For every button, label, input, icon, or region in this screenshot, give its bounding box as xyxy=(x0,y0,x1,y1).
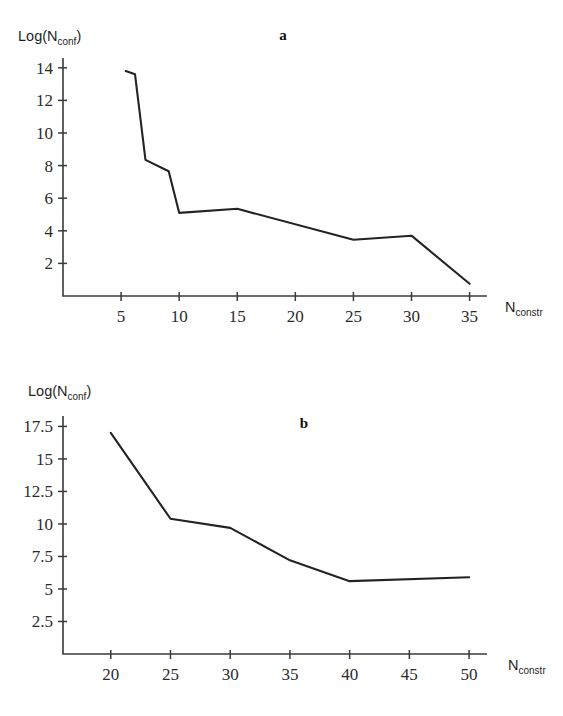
svg-text:Log(Nconf): Log(Nconf) xyxy=(18,28,81,47)
y-tick-label-b-6: 17.5 xyxy=(23,417,53,436)
x-tick-label-b-0: 20 xyxy=(102,665,119,684)
x-tick-label-b-5: 45 xyxy=(401,665,418,684)
x-tick-label-a-3: 20 xyxy=(287,307,304,326)
x-axis-title-sub-b: constr xyxy=(518,665,546,676)
y-tick-label-b-5: 15 xyxy=(36,450,53,469)
y-axis-title-sub-a: conf xyxy=(58,36,77,47)
chart-panel-a: Log(Nconf) a 24681012145101520253035 Nco… xyxy=(0,0,563,358)
x-tick-label-a-2: 15 xyxy=(229,307,246,326)
tick-label-group-b: 2.557.51012.51517.520253035404550 xyxy=(23,417,477,684)
y-tick-label-a-3: 8 xyxy=(45,157,54,176)
y-axis-title-sub-b: conf xyxy=(68,391,87,402)
x-tick-label-b-4: 40 xyxy=(341,665,358,684)
y-tick-label-a-0: 2 xyxy=(45,254,54,273)
svg-text:Log(Nconf): Log(Nconf) xyxy=(28,383,91,402)
panel-letter-b: b xyxy=(300,415,308,431)
panel-letter-a: a xyxy=(279,27,287,43)
y-tick-label-b-0: 2.5 xyxy=(32,612,53,631)
x-tick-label-b-3: 35 xyxy=(281,665,298,684)
y-tick-label-a-1: 4 xyxy=(45,222,54,241)
svg-text:Nconstr: Nconstr xyxy=(505,299,543,318)
x-tick-label-a-0: 5 xyxy=(117,307,126,326)
tick-group-b xyxy=(58,426,469,659)
svg-text:Nconstr: Nconstr xyxy=(508,657,546,676)
chart-svg-b: Log(Nconf) b 2.557.51012.51517.520253035… xyxy=(0,358,563,716)
axis-frame-b xyxy=(63,416,487,654)
y-tick-label-b-3: 10 xyxy=(36,515,53,534)
figure-container: Log(Nconf) a 24681012145101520253035 Nco… xyxy=(0,0,563,716)
y-axis-title-close-a: ) xyxy=(76,28,81,44)
chart-svg-a: Log(Nconf) a 24681012145101520253035 Nco… xyxy=(0,0,563,358)
series-group-b xyxy=(111,433,469,581)
x-axis-title-a: Nconstr xyxy=(505,299,543,318)
x-axis-title-b: Nconstr xyxy=(508,657,546,676)
tick-label-group-a: 24681012145101520253035 xyxy=(36,59,478,326)
y-axis-title-b: Log(Nconf) xyxy=(28,383,91,402)
tick-group-a xyxy=(58,68,470,301)
axis-frame-a xyxy=(63,58,487,296)
x-axis-title-sub-a: constr xyxy=(515,307,543,318)
x-tick-label-a-1: 10 xyxy=(171,307,188,326)
x-tick-label-a-5: 30 xyxy=(403,307,420,326)
y-axis-title-main-a: Log(N xyxy=(18,28,58,44)
data-line-a xyxy=(126,71,470,284)
axis-lines-b xyxy=(63,416,487,654)
y-tick-label-a-4: 10 xyxy=(36,124,53,143)
y-axis-title-main-b: Log(N xyxy=(28,383,68,399)
chart-panel-b: Log(Nconf) b 2.557.51012.51517.520253035… xyxy=(0,358,563,716)
y-tick-label-b-1: 5 xyxy=(45,580,54,599)
axis-lines-a xyxy=(63,58,487,296)
y-tick-label-b-4: 12.5 xyxy=(23,482,53,501)
x-tick-label-b-2: 30 xyxy=(222,665,239,684)
x-tick-label-a-6: 35 xyxy=(461,307,478,326)
y-tick-label-a-6: 14 xyxy=(36,59,54,78)
data-line-b xyxy=(111,433,469,581)
x-axis-title-main-b: N xyxy=(508,657,518,673)
series-group-a xyxy=(126,71,470,284)
y-tick-label-a-2: 6 xyxy=(45,189,54,208)
y-tick-label-a-5: 12 xyxy=(36,91,53,110)
x-tick-label-b-1: 25 xyxy=(162,665,179,684)
y-tick-label-b-2: 7.5 xyxy=(32,547,53,566)
x-tick-label-b-6: 50 xyxy=(461,665,478,684)
y-axis-title-a: Log(Nconf) xyxy=(18,28,81,47)
x-axis-title-main-a: N xyxy=(505,299,515,315)
x-tick-label-a-4: 25 xyxy=(345,307,362,326)
y-axis-title-close-b: ) xyxy=(86,383,91,399)
